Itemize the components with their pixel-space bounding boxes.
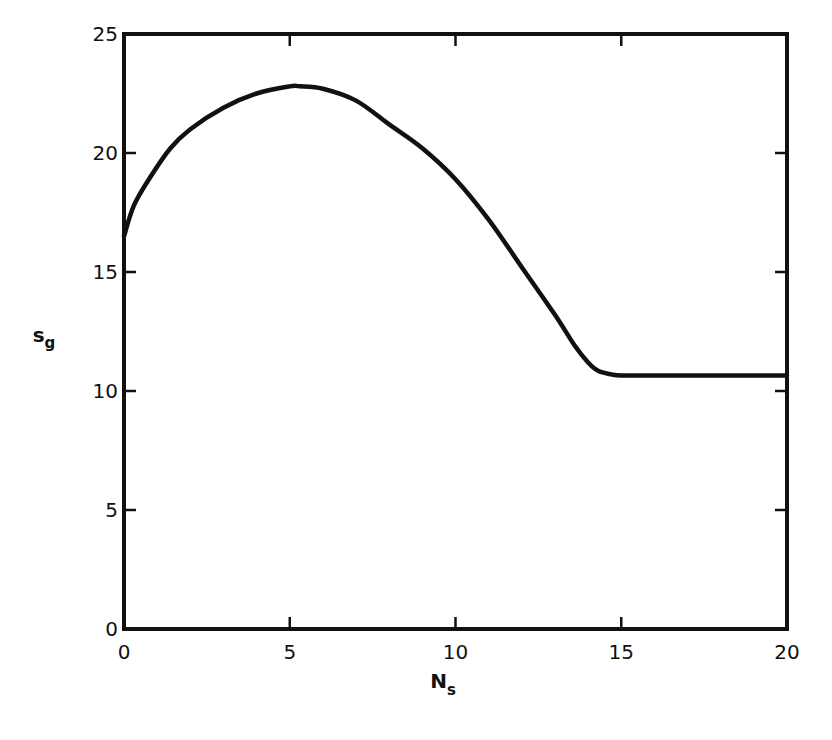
x-tick-label: 5	[283, 640, 296, 664]
line-chart: 05101520 0510152025 Ns sg	[0, 0, 832, 740]
plot-frame	[124, 34, 787, 629]
x-tick-label: 20	[774, 640, 799, 664]
series-line	[124, 86, 787, 376]
y-tick-label: 20	[93, 141, 118, 165]
x-axis-ticks: 05101520	[118, 34, 800, 664]
x-tick-label: 15	[609, 640, 634, 664]
y-tick-label: 25	[93, 22, 118, 46]
y-tick-label: 0	[105, 617, 118, 641]
data-series	[124, 86, 787, 376]
x-axis-label: Ns	[430, 669, 456, 699]
y-tick-label: 15	[93, 260, 118, 284]
x-tick-label: 0	[118, 640, 131, 664]
plot-border	[124, 34, 787, 629]
y-tick-label: 5	[105, 498, 118, 522]
y-axis-ticks: 0510152025	[93, 22, 787, 641]
y-tick-label: 10	[93, 379, 118, 403]
y-axis-label: sg	[33, 323, 56, 352]
x-tick-label: 10	[443, 640, 468, 664]
